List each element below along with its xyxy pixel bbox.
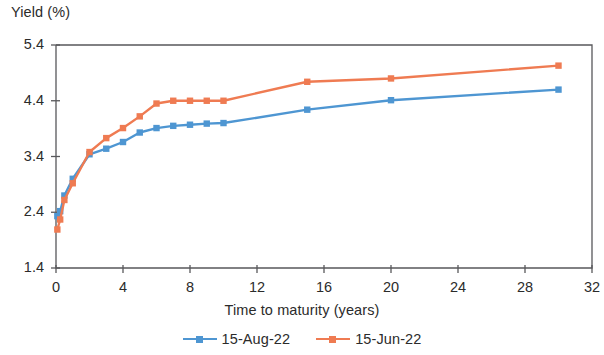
y-tick-label: 2.4: [2, 204, 44, 219]
y-tick-label: 4.4: [2, 93, 44, 108]
y-tick-label: 3.4: [2, 149, 44, 164]
legend-swatch-icon: [183, 333, 217, 345]
x-tick-label: 20: [371, 280, 411, 295]
x-tick-label: 32: [572, 280, 604, 295]
x-tick-label: 12: [237, 280, 277, 295]
legend-label: 15-Jun-22: [355, 331, 421, 347]
legend-item[interactable]: 15-Aug-22: [183, 331, 291, 347]
x-tick-label: 16: [304, 280, 344, 295]
legend-swatch-icon: [316, 333, 350, 345]
legend-item[interactable]: 15-Jun-22: [316, 331, 421, 347]
x-tick-label: 8: [170, 280, 210, 295]
x-tick-label: 24: [438, 280, 478, 295]
x-tick-label: 4: [103, 280, 143, 295]
data-series: [54, 62, 562, 232]
legend-label: 15-Aug-22: [222, 331, 291, 347]
x-axis-title: Time to maturity (years): [0, 302, 604, 318]
axes: [51, 45, 592, 273]
y-tick-label: 5.4: [2, 37, 44, 52]
yield-curve-chart: Yield (%) 1.42.43.44.45.4 04812162024283…: [0, 0, 604, 355]
chart-legend: 15-Aug-2215-Jun-22: [0, 331, 604, 347]
y-tick-label: 1.4: [2, 260, 44, 275]
x-tick-label: 0: [36, 280, 76, 295]
x-tick-label: 28: [505, 280, 545, 295]
